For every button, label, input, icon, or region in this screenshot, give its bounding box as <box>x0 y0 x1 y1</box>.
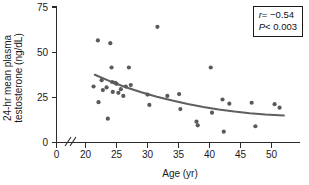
x-axis-ticks <box>57 143 272 148</box>
x-tick-label-20: 20 <box>80 149 92 160</box>
data-point <box>210 111 214 115</box>
data-point <box>222 130 226 134</box>
data-point <box>253 124 257 128</box>
x-axis-title: Age (yr) <box>162 168 198 179</box>
y-axis-ticks <box>52 7 57 143</box>
correlation-line: r= −0.54 <box>259 9 297 21</box>
data-point <box>111 90 115 94</box>
data-point <box>114 82 118 86</box>
x-tick-label-30: 30 <box>142 149 154 160</box>
y-tick-label-75: 75 <box>37 2 49 13</box>
data-point <box>96 100 100 104</box>
x-tick-label-40: 40 <box>204 149 216 160</box>
data-point <box>196 123 200 127</box>
data-points-group <box>91 25 281 134</box>
data-point <box>277 106 281 110</box>
x-tick-label-50: 50 <box>266 149 278 160</box>
data-point <box>129 83 133 87</box>
data-point <box>145 93 149 97</box>
data-point <box>165 94 169 98</box>
y-tick-label-0: 0 <box>42 137 48 148</box>
correlation-value: = −0.54 <box>262 9 294 20</box>
x-tick-label-25: 25 <box>111 149 123 160</box>
y-tick-label-25: 25 <box>37 92 49 103</box>
pvalue-line: P< 0.003 <box>259 21 297 33</box>
data-point <box>108 41 112 45</box>
data-point <box>116 91 120 95</box>
data-point <box>124 84 128 88</box>
data-point <box>177 92 181 96</box>
data-point <box>273 102 277 106</box>
x-tick-label-0: 0 <box>54 149 60 160</box>
statistics-box: r= −0.54 P< 0.003 <box>253 6 303 37</box>
data-point <box>121 94 125 98</box>
data-point <box>250 101 254 105</box>
axis-break-icon <box>65 137 76 146</box>
x-tick-label-45: 45 <box>235 149 247 160</box>
data-point <box>194 120 198 124</box>
chart-figure: 75 50 25 0 0 20 25 30 35 40 45 50 Age <box>0 0 309 185</box>
y-axis-title-line2: testosterone (ng/dL) <box>13 33 24 123</box>
x-tick-label-35: 35 <box>173 149 185 160</box>
data-point <box>96 38 100 42</box>
y-axis-title: 24-hr mean plasma <box>2 34 13 121</box>
pvalue-value: < 0.003 <box>265 21 297 32</box>
data-point <box>91 84 95 88</box>
data-point <box>109 65 113 69</box>
data-point <box>209 65 213 69</box>
data-point <box>104 85 108 89</box>
data-point <box>101 88 105 92</box>
data-point <box>227 102 231 106</box>
data-point <box>147 103 151 107</box>
data-point <box>220 97 224 101</box>
data-point <box>119 87 123 91</box>
data-point <box>178 107 182 111</box>
data-point <box>106 117 110 121</box>
y-tick-label-50: 50 <box>37 47 49 58</box>
data-point <box>127 65 131 69</box>
data-point <box>155 25 159 29</box>
data-point <box>100 78 104 82</box>
